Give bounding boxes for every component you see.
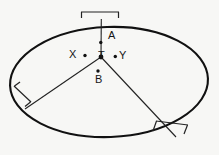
point-x-dot <box>83 54 86 57</box>
tick-top-bracket <box>81 12 119 18</box>
label-x: X <box>69 49 76 60</box>
tick-right-bracket <box>153 121 188 134</box>
chord-lower-left <box>25 57 101 109</box>
label-b: B <box>95 74 102 85</box>
chord-lower-right <box>101 57 176 137</box>
label-y: Y <box>119 50 126 61</box>
geometry-figure: A T Y X B <box>0 0 219 155</box>
ellipse-outline <box>8 24 210 141</box>
point-a-dot <box>99 41 102 44</box>
figure-canvas <box>0 0 219 155</box>
point-y-dot <box>114 55 117 58</box>
label-a: A <box>108 30 115 41</box>
label-t: T <box>98 50 105 61</box>
